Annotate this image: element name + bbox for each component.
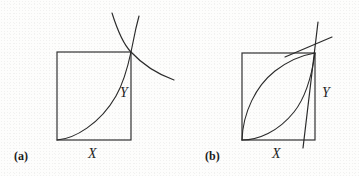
panel-a-graphic bbox=[57, 13, 174, 140]
panel-a-increasing-convex-curve bbox=[57, 16, 139, 140]
panel-a-x-axis-label: X bbox=[88, 147, 97, 161]
figure-container: (a) X Y (b) X Y bbox=[0, 0, 359, 176]
panel-b-graphic bbox=[242, 22, 332, 148]
panel-b-y-axis-label: Y bbox=[322, 86, 330, 100]
figure-drawing bbox=[0, 0, 359, 176]
panel-b-steep-rising-line bbox=[303, 22, 318, 148]
panel-b-label: (b) bbox=[205, 150, 220, 162]
panel-a-label: (a) bbox=[14, 150, 28, 162]
panel-b-convex-lower-curve bbox=[242, 53, 315, 140]
panel-a-decreasing-convex-curve bbox=[112, 13, 174, 80]
panel-b-x-axis-label: X bbox=[272, 147, 281, 161]
panel-a-y-axis-label: Y bbox=[120, 86, 128, 100]
